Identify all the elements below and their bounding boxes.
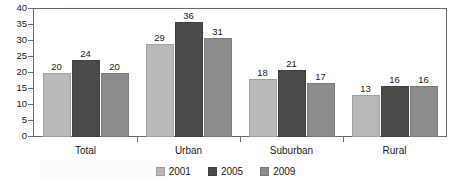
bar-group: 182117	[240, 9, 343, 137]
y-axis-tick-label: 20	[16, 67, 27, 77]
y-axis-tick-mark	[28, 24, 33, 25]
bar-value-label: 29	[143, 32, 177, 43]
x-axis-category-label: Urban	[139, 145, 239, 157]
bar-group: 131616	[343, 9, 446, 137]
x-axis-group-tick	[137, 137, 138, 142]
y-axis-tick-label: 30	[16, 35, 27, 45]
bar-group: 293631	[137, 9, 240, 137]
y-axis-tick-label: 25	[16, 51, 27, 61]
bar-value-label: 21	[275, 58, 309, 69]
legend-swatch-icon	[260, 167, 269, 176]
x-axis-group-tick	[343, 137, 344, 142]
bar-rural-2009	[410, 86, 438, 137]
y-axis-tick-mark	[28, 8, 33, 9]
x-axis-category-label: Total	[36, 145, 136, 157]
x-axis-group-tick	[240, 137, 241, 142]
legend-label: 2005	[221, 166, 243, 177]
bar-group: 202420	[34, 9, 137, 137]
y-axis-tick-mark	[28, 120, 33, 121]
bar-value-label: 18	[246, 67, 280, 78]
y-axis-tick-mark	[28, 136, 33, 137]
y-axis-tick-mark	[28, 88, 33, 89]
bar-suburban-2009	[307, 83, 335, 137]
legend-label: 2001	[169, 166, 191, 177]
y-axis-tick-mark	[28, 56, 33, 57]
y-axis-tick-mark	[28, 104, 33, 105]
bar-chart: 0510152025303540 20242029363118211713161…	[0, 0, 451, 188]
legend-item-2001[interactable]: 2001	[156, 166, 191, 177]
y-axis-tick-label: 0	[22, 131, 27, 141]
y-axis-tick-label: 15	[16, 83, 27, 93]
bar-value-label: 20	[98, 61, 132, 72]
bar-total-2005	[72, 60, 100, 137]
legend-swatch-icon	[156, 167, 165, 176]
bar-value-label: 36	[172, 10, 206, 21]
y-axis-tick-mark	[28, 72, 33, 73]
bar-total-2009	[101, 73, 129, 137]
x-axis-category-label: Suburban	[242, 145, 342, 157]
y-axis-tick-label: 5	[22, 115, 27, 125]
bar-value-label: 20	[40, 61, 74, 72]
bar-urban-2005	[175, 22, 203, 137]
legend-item-2009[interactable]: 2009	[260, 166, 295, 177]
legend-label: 2009	[273, 166, 295, 177]
bar-suburban-2005	[278, 70, 306, 137]
bar-value-label: 13	[349, 83, 383, 94]
y-axis-tick-label: 10	[16, 99, 27, 109]
bar-value-label: 24	[69, 48, 103, 59]
bar-suburban-2001	[249, 79, 277, 137]
bar-total-2001	[43, 73, 71, 137]
chart-legend: 200120052009	[0, 166, 451, 177]
bar-value-label: 31	[201, 26, 235, 37]
x-axis-category-label: Rural	[345, 145, 445, 157]
legend-swatch-icon	[208, 167, 217, 176]
y-axis: 0510152025303540	[0, 8, 33, 138]
y-axis-tick-label: 35	[16, 19, 27, 29]
bar-value-label: 17	[304, 71, 338, 82]
legend-item-2005[interactable]: 2005	[208, 166, 243, 177]
bar-rural-2001	[352, 95, 380, 137]
bar-urban-2001	[146, 44, 174, 137]
bars-container: 202420293631182117131616	[34, 9, 446, 137]
y-axis-tick-label: 40	[16, 3, 27, 13]
bar-rural-2005	[381, 86, 409, 137]
y-axis-tick-mark	[28, 40, 33, 41]
bar-value-label: 16	[407, 74, 441, 85]
bar-urban-2009	[204, 38, 232, 137]
